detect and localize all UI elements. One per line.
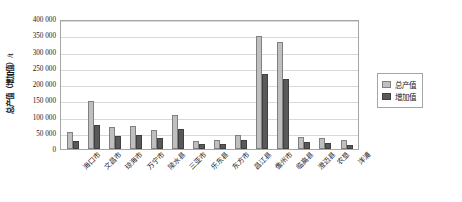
bar-added-0 (73, 141, 79, 149)
bar-added-13 (347, 145, 353, 149)
y-axis-title: 总产值（增加值）/t (1, 18, 17, 148)
bar-group-12 (315, 21, 336, 149)
y-axis-tick-4: 200 000 (16, 82, 56, 89)
bar-group-4 (146, 21, 167, 149)
bar-group-3 (125, 21, 146, 149)
bar-chart: 总产值（增加值）/t 400 000350 000300 000250 0002… (0, 0, 462, 202)
bar-added-12 (325, 143, 331, 150)
legend-label-1: 增加值 (395, 91, 416, 102)
bar-added-4 (157, 138, 163, 149)
bar-added-10 (283, 79, 289, 149)
bar-added-1 (94, 125, 100, 149)
legend-label-0: 总产值 (395, 79, 416, 90)
x-axis-tick-3: 万宁市 (146, 151, 167, 172)
y-axis-tick-labels: 400 000350 000300 000250 000200 000150 0… (18, 16, 58, 152)
x-axis-tick-10: 临高县 (295, 151, 316, 172)
y-axis-tick-5: 150 000 (16, 98, 56, 105)
bar-added-2 (115, 136, 121, 149)
bar-added-3 (136, 135, 142, 149)
bar-group-6 (188, 21, 209, 149)
x-axis-tick-13: 洋浦 (357, 151, 373, 167)
bar-added-11 (304, 142, 310, 149)
bar-group-9 (252, 21, 273, 149)
bar-group-2 (104, 21, 125, 149)
bar-group-13 (336, 21, 357, 149)
legend-swatch-icon-0 (382, 81, 391, 88)
x-axis-tick-0: 海口市 (82, 151, 103, 172)
bars-layer (61, 21, 358, 149)
x-axis-tick-7: 东方市 (231, 151, 252, 172)
y-axis-title-label: 总产值（增加值）/t (4, 53, 15, 114)
bar-group-11 (294, 21, 315, 149)
x-axis-tick-1: 文昌市 (103, 151, 124, 172)
bar-added-7 (220, 144, 226, 149)
legend-item-1[interactable]: 增加值 (382, 91, 416, 102)
y-axis-tick-1: 350 000 (16, 33, 56, 40)
bar-added-8 (241, 140, 247, 149)
bar-added-9 (262, 74, 268, 149)
x-axis-tick-11: 澄迈县 (317, 151, 338, 172)
bar-group-5 (167, 21, 188, 149)
bar-group-10 (273, 21, 294, 149)
y-axis-tick-3: 250 000 (16, 65, 56, 72)
x-axis-tick-6: 乐东县 (210, 151, 231, 172)
x-axis-tick-5: 三亚市 (189, 151, 210, 172)
chart-legend: 总产值增加值 (377, 73, 423, 108)
y-axis-tick-0: 400 000 (16, 17, 56, 24)
bar-group-1 (83, 21, 104, 149)
x-axis-tick-4: 陵水县 (167, 151, 188, 172)
x-axis-tick-12: 农垦 (336, 151, 352, 167)
x-axis-tick-labels: 海口市文昌市琼海市万宁市陵水县三亚市乐东县东方市昌江县儋州市临高县澄迈县农垦洋浦 (60, 151, 359, 201)
bar-group-0 (62, 21, 83, 149)
legend-item-0[interactable]: 总产值 (382, 79, 416, 90)
bar-added-5 (178, 129, 184, 149)
y-axis-tick-2: 300 000 (16, 49, 56, 56)
x-axis-tick-9: 儋州市 (274, 151, 295, 172)
bar-group-7 (210, 21, 231, 149)
y-axis-tick-7: 50 000 (16, 130, 56, 137)
x-axis-tick-2: 琼海市 (125, 151, 146, 172)
y-axis-tick-8: 0 (16, 147, 56, 154)
plot-area (60, 20, 359, 150)
y-axis-tick-6: 100 000 (16, 114, 56, 121)
bar-group-8 (231, 21, 252, 149)
legend-swatch-icon-1 (382, 93, 391, 100)
x-axis-tick-8: 昌江县 (253, 151, 274, 172)
bar-added-6 (199, 144, 205, 149)
